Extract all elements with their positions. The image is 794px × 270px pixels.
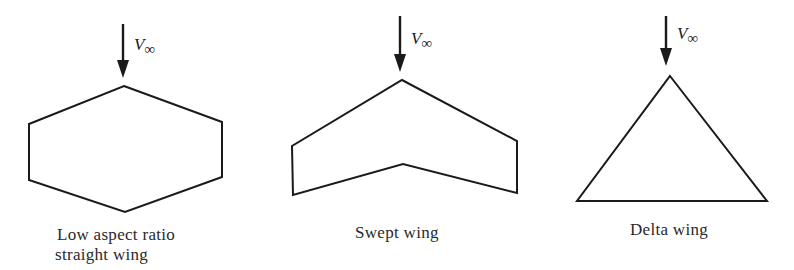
caption-line-1: Low aspect ratio	[57, 225, 175, 245]
caption-line-1: Swept wing	[355, 223, 439, 243]
swept-wing-panel	[292, 16, 517, 195]
freestream-velocity-label: V∞	[134, 36, 155, 53]
infinity-subscript: ∞	[687, 30, 698, 46]
delta-wing-outline	[577, 76, 767, 201]
caption-line-1: Delta wing	[630, 220, 708, 240]
freestream-arrow-icon	[117, 24, 129, 78]
velocity-symbol: V	[411, 29, 421, 48]
delta-wing-panel	[577, 16, 767, 201]
infinity-subscript: ∞	[144, 41, 155, 57]
delta-wing-caption: Delta wing	[630, 220, 708, 240]
low-aspect-ratio-caption: Low aspect ratio straight wing	[57, 225, 175, 265]
straight-wing-outline	[29, 86, 222, 212]
freestream-velocity-label: V∞	[677, 25, 698, 42]
swept-wing-outline	[292, 80, 517, 195]
wing-planform-figure: V∞ V∞ V∞ Low aspect ratio straight wing …	[0, 0, 794, 270]
freestream-velocity-label: V∞	[411, 30, 432, 47]
freestream-arrow-icon	[394, 16, 406, 72]
velocity-symbol: V	[677, 24, 687, 43]
freestream-arrow-icon	[660, 16, 672, 66]
low-aspect-ratio-panel	[29, 24, 222, 212]
swept-wing-caption: Swept wing	[355, 223, 439, 243]
caption-line-2: straight wing	[55, 245, 175, 265]
infinity-subscript: ∞	[421, 35, 432, 51]
velocity-symbol: V	[134, 35, 144, 54]
